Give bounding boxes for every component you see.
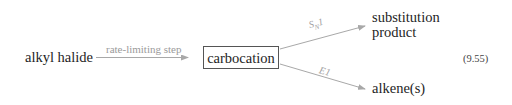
- rate-limiting-step-label: rate-limiting step: [106, 43, 181, 55]
- reactant-label: alkyl halide: [25, 49, 93, 66]
- alkene-product-label: alkene(s): [372, 80, 425, 97]
- intermediate-box: carbocation: [203, 46, 279, 69]
- equation-number: (9.55): [463, 53, 488, 64]
- intermediate-label: carbocation: [204, 50, 278, 67]
- substitution-product-line2: product: [372, 24, 416, 41]
